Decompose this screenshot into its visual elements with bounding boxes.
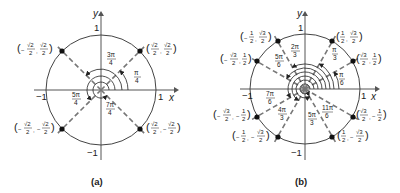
angle-label-5pi-6: 5π 6	[275, 53, 284, 68]
svg-text:2: 2	[26, 129, 30, 135]
svg-text:,: ,	[239, 58, 241, 64]
svg-text:6: 6	[268, 98, 272, 105]
tick-pos-x: 1	[158, 91, 163, 102]
coord-label-210: ( − √3 2 , − 1 2 )	[213, 108, 251, 122]
svg-text:): )	[268, 30, 272, 42]
svg-text:3: 3	[333, 54, 337, 61]
svg-text:√3: √3	[350, 30, 357, 36]
svg-text:,: ,	[160, 127, 162, 133]
svg-text:−: −	[163, 126, 167, 132]
svg-text:2: 2	[259, 137, 263, 143]
svg-text:,: ,	[346, 36, 348, 42]
svg-text:): )	[51, 121, 55, 133]
tick-pos-y: 1	[94, 22, 99, 33]
panel-b: y x 1 −1 1 −1 ( 1 2 , √3 2 ) ( √3	[213, 8, 387, 187]
svg-text:−: −	[251, 134, 255, 140]
point-225	[59, 126, 64, 131]
svg-text:2: 2	[243, 60, 247, 66]
svg-text:2: 2	[232, 60, 236, 66]
svg-text:1: 1	[242, 129, 246, 135]
svg-text:2: 2	[342, 137, 346, 143]
svg-text:,: ,	[232, 114, 234, 120]
angle-label-7pi-4: 7π 4	[106, 101, 115, 116]
svg-text:√2: √2	[42, 121, 49, 127]
svg-text:): )	[365, 129, 369, 141]
svg-text:,: ,	[247, 135, 249, 141]
angle-label-5pi-3: 5π 3	[308, 111, 317, 126]
svg-text:3π: 3π	[107, 51, 116, 58]
svg-text:,: ,	[369, 58, 371, 64]
svg-text:3: 3	[310, 119, 314, 126]
point-150	[254, 58, 259, 63]
panel-a: y x 1 −1 1 −1 ( √2 2 , √2 2 ) ( − √2	[14, 8, 181, 187]
svg-text:√3: √3	[230, 52, 237, 58]
tick-pos-x: 1	[361, 90, 366, 101]
point-120	[275, 38, 280, 43]
tick-neg-x: −1	[36, 91, 47, 102]
svg-text:2: 2	[250, 38, 254, 44]
angle-label-2pi-3: 2π 3	[291, 43, 300, 58]
svg-text:2: 2	[261, 38, 265, 44]
svg-text:√3: √3	[223, 108, 230, 114]
coord-label-135: ( − √2 2 , √2 2 )	[17, 42, 53, 56]
x-axis-label: x	[168, 92, 175, 103]
svg-text:): )	[173, 42, 177, 54]
svg-text:√3: √3	[360, 52, 367, 58]
svg-text:2: 2	[225, 116, 229, 122]
svg-text:2: 2	[362, 116, 366, 122]
svg-text:,: ,	[255, 36, 257, 42]
svg-text:,: ,	[369, 114, 371, 120]
coord-label-330: ( √3 2 , − 1 2 )	[356, 108, 387, 122]
svg-text:3: 3	[293, 51, 297, 58]
angle-label-4pi-3: 4π 3	[278, 106, 287, 121]
y-axis-label: y	[296, 8, 303, 19]
point-135	[59, 48, 64, 53]
svg-text:5π: 5π	[275, 53, 284, 60]
svg-text:): )	[49, 42, 53, 54]
svg-text:5π: 5π	[72, 91, 81, 98]
tick-neg-y: −1	[87, 147, 98, 158]
coord-label-315: ( √2 2 , − √2 2 )	[146, 121, 181, 135]
coord-labels: ( 1 2 , √3 2 ) ( √3 2 , 1 2 )	[213, 30, 387, 143]
svg-text:): )	[248, 52, 252, 64]
point-315	[137, 126, 142, 131]
angle-label-7pi-6: 7π 6	[266, 90, 275, 105]
svg-text:7π: 7π	[106, 101, 115, 108]
svg-text:,: ,	[33, 127, 35, 133]
angle-label-5pi-4: 5π 4	[72, 91, 81, 106]
coord-label-225: ( − √2 2 , − √2 2 )	[14, 121, 55, 135]
svg-text:−: −	[18, 126, 22, 132]
svg-text:2: 2	[42, 50, 46, 56]
svg-text:,: ,	[347, 135, 349, 141]
coord-label-300: ( 1 2 , − √3 2 )	[337, 129, 369, 143]
y-axis-label: y	[92, 8, 99, 19]
svg-text:4: 4	[74, 99, 78, 106]
svg-text:−: −	[236, 113, 240, 119]
svg-text:4: 4	[135, 77, 139, 84]
svg-text:√3: √3	[360, 108, 367, 114]
point-300	[329, 134, 334, 139]
svg-text:−: −	[217, 113, 221, 119]
svg-text:−: −	[37, 126, 41, 132]
svg-text:1: 1	[378, 108, 382, 114]
unit-circle-figure: y x 1 −1 1 −1 ( √2 2 , √2 2 ) ( − √2	[0, 0, 400, 193]
caption-b: (b)	[295, 176, 307, 187]
svg-text:π: π	[332, 46, 337, 53]
point-210	[254, 114, 259, 119]
svg-text:2: 2	[153, 129, 157, 135]
svg-text:1: 1	[242, 108, 246, 114]
svg-text:π: π	[339, 71, 344, 78]
svg-text:2: 2	[378, 116, 382, 122]
svg-text:2: 2	[242, 116, 246, 122]
svg-text:2: 2	[373, 60, 377, 66]
svg-text:1: 1	[373, 52, 377, 58]
svg-text:4: 4	[109, 59, 113, 66]
coord-label-150: ( − √3 2 , 1 2 )	[220, 52, 252, 66]
svg-text:2: 2	[170, 129, 174, 135]
svg-text:4π: 4π	[278, 106, 287, 113]
coord-label-60: ( 1 2 , √3 2 )	[336, 30, 363, 44]
svg-text:1: 1	[342, 129, 346, 135]
angle-label-11pi-6: 11π 6	[322, 104, 334, 119]
svg-text:√3: √3	[257, 129, 264, 135]
svg-text:6: 6	[325, 112, 329, 119]
